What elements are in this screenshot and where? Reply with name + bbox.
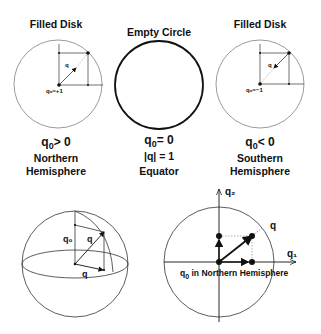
axis-q1-label: q₁	[287, 248, 297, 259]
plane-vector-label: q	[270, 220, 276, 231]
south-disk	[216, 40, 304, 128]
south-vector-label: q	[268, 62, 272, 68]
north-equation: q0> 0	[10, 135, 102, 151]
equator-caption: Equator	[112, 165, 206, 178]
north-vector-label: q	[65, 62, 69, 68]
south-title: Filled Disk	[214, 18, 306, 30]
sphere-q-label: q	[87, 234, 93, 244]
axis-q2-label: q₂	[225, 186, 236, 197]
sphere-diagram	[22, 211, 128, 317]
south-equation: q0< 0	[214, 135, 306, 151]
plane-caption: q0 in Northern Hemisphere	[180, 268, 288, 280]
equator-norm: |q| = 1	[112, 150, 206, 163]
north-title: Filled Disk	[10, 18, 102, 30]
south-point-label: q₀=−1	[246, 87, 263, 93]
north-caption-1: Northern	[10, 152, 102, 165]
north-caption-2: Hemisphere	[10, 165, 102, 178]
projection-plane	[164, 189, 296, 322]
equator-title: Empty Circle	[112, 26, 206, 38]
north-disk	[14, 40, 103, 128]
equator-equation: q0= 0	[112, 133, 206, 149]
south-caption-2: Hemisphere	[214, 165, 306, 178]
sphere-qvec-label: q	[82, 269, 88, 279]
equator-circle	[115, 41, 203, 129]
south-caption-1: Southern	[214, 152, 306, 165]
north-point-label: q₀=+1	[46, 88, 63, 94]
sphere-q0-label: q₀	[63, 234, 73, 244]
